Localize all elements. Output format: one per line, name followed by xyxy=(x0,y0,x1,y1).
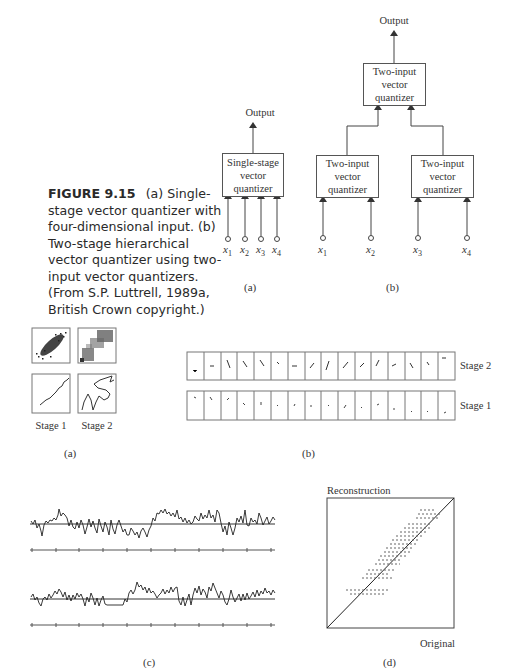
top-quantizer-box: Two-input vector quantizer xyxy=(363,63,426,106)
x-axis-label: Original xyxy=(420,638,455,649)
code-vector-strips: Stage 2 Stage 1 (b) xyxy=(0,320,522,470)
box-line: quantizer xyxy=(423,183,462,196)
time-series-panel: (c) xyxy=(0,480,320,668)
box-line: Two-input xyxy=(373,65,417,78)
input-b-x4: x4 xyxy=(462,243,471,258)
panel-label-d: (d) xyxy=(383,656,396,668)
input-b-x2: x2 xyxy=(366,243,375,258)
box-line: quantizer xyxy=(375,91,414,104)
row-label-stage-1: Stage 1 xyxy=(460,400,506,411)
input-b-x1: x1 xyxy=(318,243,327,258)
row-label-stage-2: Stage 2 xyxy=(460,360,506,371)
box-line: Two-input xyxy=(421,157,465,170)
code-vector-grid xyxy=(0,320,522,470)
box-line: vector xyxy=(334,170,360,183)
panel-label-c: (c) xyxy=(143,656,155,668)
time-series-plots xyxy=(0,480,320,668)
panel-label-b-mid: (b) xyxy=(302,447,315,459)
box-line: vector xyxy=(381,78,407,91)
input-b-x3: x3 xyxy=(413,243,422,258)
panel-label-b-top: (b) xyxy=(386,281,399,293)
box-line: Two-input xyxy=(326,157,370,170)
reconstruction-plot xyxy=(320,460,522,668)
box-line: vector xyxy=(429,170,455,183)
diagram-hierarchical: Output Two-input vector quantizer Two-in… xyxy=(0,0,522,320)
reconstruction-panel: Reconstruction Original (d) xyxy=(320,460,522,668)
left-quantizer-box: Two-input vector quantizer xyxy=(316,155,379,198)
box-line: quantizer xyxy=(328,183,367,196)
right-quantizer-box: Two-input vector quantizer xyxy=(411,155,474,198)
